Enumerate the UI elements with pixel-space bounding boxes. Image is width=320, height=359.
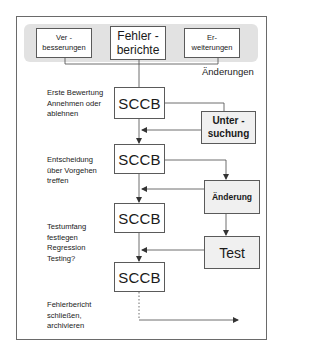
step-2-line-3: treffen <box>47 176 97 187</box>
sccb-node-4-label: SCCB <box>118 269 160 286</box>
step-3-line-1: Testumfang <box>47 222 86 233</box>
sccb-node-2: SCCB <box>114 144 165 174</box>
sccb-node-3-label: SCCB <box>118 210 160 227</box>
node-test-label: Test <box>219 245 245 261</box>
node-aenderung: Änderung <box>204 180 260 214</box>
node-untersuchung-line2: suchung <box>208 128 250 141</box>
step-1-line-3: ablehnen <box>47 109 103 120</box>
node-test: Test <box>204 236 260 269</box>
node-untersuchung-line1: Unter - <box>212 115 244 128</box>
step-2-description: Entscheidung über Vorgehen treffen <box>47 155 97 187</box>
sccb-node-3: SCCB <box>114 203 165 233</box>
step-2-line-1: Entscheidung <box>47 155 97 166</box>
sccb-node-1-label: SCCB <box>118 95 160 112</box>
sccb-node-2-label: SCCB <box>118 151 160 168</box>
step-3-line-2: festlegen <box>47 233 86 244</box>
step-2-line-2: über Vorgehen <box>47 166 97 177</box>
step-4-description: Fehlerbericht schließen, archivieren <box>47 300 91 332</box>
sccb-node-1: SCCB <box>114 87 165 119</box>
step-1-line-1: Erste Bewertung <box>47 88 103 99</box>
step-4-line-3: archivieren <box>47 321 91 332</box>
sccb-node-4: SCCB <box>114 262 165 292</box>
step-4-line-1: Fehlerbericht <box>47 300 91 311</box>
step-3-line-4: Testing? <box>47 254 86 265</box>
step-1-description: Erste Bewertung Annehmen oder ablehnen <box>47 88 103 120</box>
node-aenderung-label: Änderung <box>212 192 252 202</box>
step-1-line-2: Annehmen oder <box>47 99 103 110</box>
step-3-description: Testumfang festlegen Regression Testing? <box>47 222 86 264</box>
step-3-line-3: Regression <box>47 243 86 254</box>
step-4-line-2: schließen, <box>47 311 91 322</box>
node-untersuchung: Unter - suchung <box>201 111 256 144</box>
